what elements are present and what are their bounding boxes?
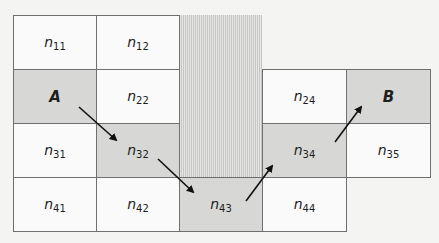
cell-label: n44 <box>294 196 316 214</box>
cell-label: n31 <box>44 142 66 160</box>
cell-label: n42 <box>127 196 149 214</box>
cell-label: n24 <box>294 88 316 106</box>
grid-cell-n11: n11 <box>13 15 97 70</box>
grid-cell-n31: n31 <box>13 123 97 178</box>
obstacle-hatched-column <box>179 15 262 177</box>
grid-path-diagram: n11n12An22n24Bn31n32n34n35n41n42n43n44 <box>0 0 439 243</box>
grid-cell-n24: n24 <box>262 69 347 124</box>
grid-cell-n12: n12 <box>96 15 180 70</box>
cell-label: n43 <box>210 196 232 214</box>
grid-cell-n35: n35 <box>346 123 431 178</box>
cell-label: n34 <box>294 142 316 160</box>
grid-cell-n42: n42 <box>96 177 180 232</box>
grid-cell-n43: n43 <box>179 177 263 232</box>
grid-cell-a: A <box>13 69 97 124</box>
grid-cell-b: B <box>346 69 431 124</box>
grid-cell-n32: n32 <box>96 123 180 178</box>
cell-label: n32 <box>127 142 149 160</box>
grid-cell-n41: n41 <box>13 177 97 232</box>
cell-label: n12 <box>127 34 149 52</box>
cell-label: n22 <box>127 88 149 106</box>
cell-label: n35 <box>378 142 400 160</box>
grid-cell-n44: n44 <box>262 177 347 232</box>
cell-label: n41 <box>44 196 66 214</box>
cell-label: n11 <box>44 34 66 52</box>
grid-cell-n34: n34 <box>262 123 347 178</box>
grid-cell-n22: n22 <box>96 69 180 124</box>
cell-label: B <box>383 88 394 106</box>
cell-label: A <box>49 88 61 106</box>
